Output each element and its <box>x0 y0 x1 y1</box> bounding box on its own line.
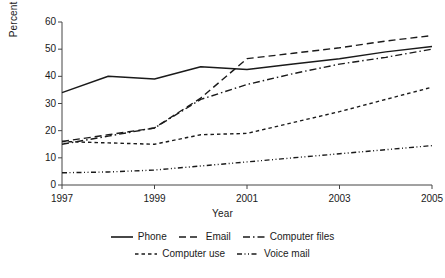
y-tick-label: 60 <box>22 16 56 27</box>
legend-label: Computer files <box>270 231 334 242</box>
y-tick-label: 10 <box>22 152 56 163</box>
legend-item-phone[interactable]: Phone <box>111 231 167 242</box>
x-tick-label: 2005 <box>412 193 445 204</box>
x-tick-label: 1997 <box>42 193 82 204</box>
series-line-email <box>62 36 432 142</box>
legend-swatch-dash-dot <box>243 233 265 241</box>
series-line-voice-mail <box>62 146 432 173</box>
legend-label: Email <box>206 231 231 242</box>
legend-item-computer-files[interactable]: Computer files <box>243 231 334 242</box>
legend-swatch-short-dash <box>135 250 157 258</box>
series-line-phone <box>62 46 432 92</box>
legend-item-computer-use[interactable]: Computer use <box>135 248 225 259</box>
y-tick-label: 50 <box>22 43 56 54</box>
y-tick-label: 30 <box>22 98 56 109</box>
x-tick-label: 1999 <box>135 193 175 204</box>
legend-label: Voice mail <box>264 248 310 259</box>
series-line-computer-use <box>62 87 432 144</box>
x-tick-label: 2001 <box>227 193 267 204</box>
chart-figure: Percent "yes" Year 0102030405060 1997199… <box>0 0 445 278</box>
legend-item-voice-mail[interactable]: Voice mail <box>237 248 310 259</box>
y-tick-label: 20 <box>22 125 56 136</box>
legend-swatch-dash-dot-dot <box>237 250 259 258</box>
series-line-computer-files <box>62 49 432 144</box>
legend-label: Computer use <box>162 248 225 259</box>
y-tick-label: 40 <box>22 70 56 81</box>
legend-swatch-dashed <box>179 233 201 241</box>
x-tick-label: 2003 <box>320 193 360 204</box>
legend-row-2: Computer useVoice mail <box>0 245 445 262</box>
y-axis-title: Percent "yes" <box>8 0 19 56</box>
legend-label: Phone <box>138 231 167 242</box>
y-tick-label: 0 <box>22 179 56 190</box>
chart-legend: PhoneEmailComputer files Computer useVoi… <box>0 228 445 262</box>
legend-row-1: PhoneEmailComputer files <box>0 228 445 245</box>
legend-swatch-solid <box>111 233 133 241</box>
x-axis-title: Year <box>0 208 445 219</box>
legend-item-email[interactable]: Email <box>179 231 231 242</box>
